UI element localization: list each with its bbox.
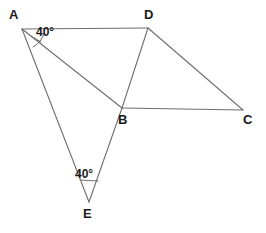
vertex-label-C: C [243,113,252,126]
angle-label-E: 40° [75,168,93,180]
segment-DB [122,28,148,108]
vertex-label-D: D [144,8,153,21]
angle-label-A: 40° [36,26,54,38]
vertex-label-E: E [83,207,92,220]
vertex-label-A: A [9,8,18,21]
segment-DC [148,28,243,110]
vertex-label-B: B [118,113,127,126]
geometry-figure: A B C D E 40° 40° [0,0,266,233]
segment-BC [122,108,243,110]
